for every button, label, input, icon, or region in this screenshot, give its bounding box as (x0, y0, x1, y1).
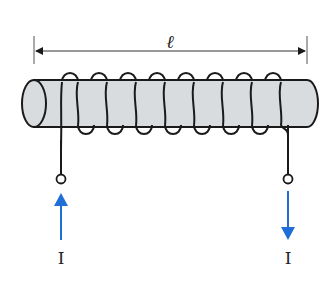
left-terminal (57, 175, 66, 184)
length-dimension: ℓ (34, 31, 307, 64)
solenoid-diagram: ℓ (0, 0, 334, 285)
length-label: ℓ (166, 31, 174, 52)
right-terminal (284, 175, 293, 184)
iron-core (22, 80, 318, 127)
current-out-arrow (281, 191, 295, 240)
current-in-arrow (54, 193, 68, 240)
current-out-label: I (285, 248, 292, 268)
current-in-label: I (58, 248, 65, 268)
